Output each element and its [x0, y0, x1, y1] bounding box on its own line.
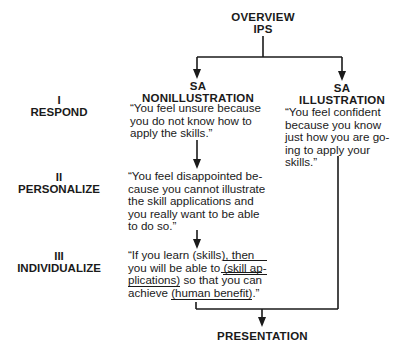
- quote-line: “You feel confident: [285, 106, 403, 119]
- left-branch-title-line1: SA: [132, 80, 264, 92]
- quote-line: “You feel disappointed be-: [128, 170, 270, 183]
- stage-personalize: II PERSONALIZE: [0, 171, 118, 195]
- right-branch-title-line1: SA: [292, 82, 392, 94]
- stage-individualize: III INDIVIDUALIZE: [0, 250, 118, 274]
- root-title: OVERVIEW: [213, 11, 313, 23]
- quote-fragment: so that: [180, 273, 221, 286]
- right-respond-quote: “You feel confident because you know jus…: [285, 106, 403, 169]
- arrow-down-icon: [258, 317, 266, 327]
- left-respond-quote: “You feel unsure because you do not know…: [130, 102, 270, 140]
- quote-line: to do so.”: [128, 220, 270, 233]
- human-benefit-blank: (human benefit): [171, 286, 252, 300]
- stage-label: PERSONALIZE: [0, 183, 118, 195]
- quote-line: “You feel unsure because: [130, 102, 270, 115]
- stage-numeral: I: [0, 94, 118, 106]
- stage-numeral: II: [0, 171, 118, 183]
- stage-numeral: III: [0, 250, 118, 262]
- stage-respond: I RESPOND: [0, 94, 118, 118]
- right-branch-title: SA ILLUSTRATION: [292, 82, 392, 106]
- individualize-quote: “If you learn (skills), then you will be…: [128, 249, 274, 299]
- quote-fragment: .”: [252, 286, 259, 299]
- quote-line: just how you are go-: [285, 131, 403, 144]
- stage-label: INDIVIDUALIZE: [0, 262, 118, 274]
- root-node: OVERVIEW IPS: [213, 11, 313, 35]
- quote-line: apply the skills.”: [130, 127, 270, 140]
- personalize-quote: “You feel disappointed be- cause you can…: [128, 170, 270, 233]
- arrow-down-icon: [338, 71, 346, 81]
- root-subtitle: IPS: [213, 23, 313, 35]
- quote-fragment: you will be able to: [128, 261, 223, 274]
- arrow-down-icon: [193, 69, 201, 79]
- quote-fragment: achieve: [128, 286, 171, 299]
- arrow-down-icon: [193, 159, 201, 169]
- outcome-presentation: PRESENTATION: [200, 330, 325, 342]
- quote-line: the skill applications and: [128, 195, 270, 208]
- quote-line: skills.”: [285, 156, 403, 169]
- quote-line: achieve (human benefit).”: [128, 287, 274, 300]
- outcome-label: PRESENTATION: [200, 330, 325, 342]
- stage-label: RESPOND: [0, 106, 118, 118]
- you-can-overline: you can: [221, 272, 262, 286]
